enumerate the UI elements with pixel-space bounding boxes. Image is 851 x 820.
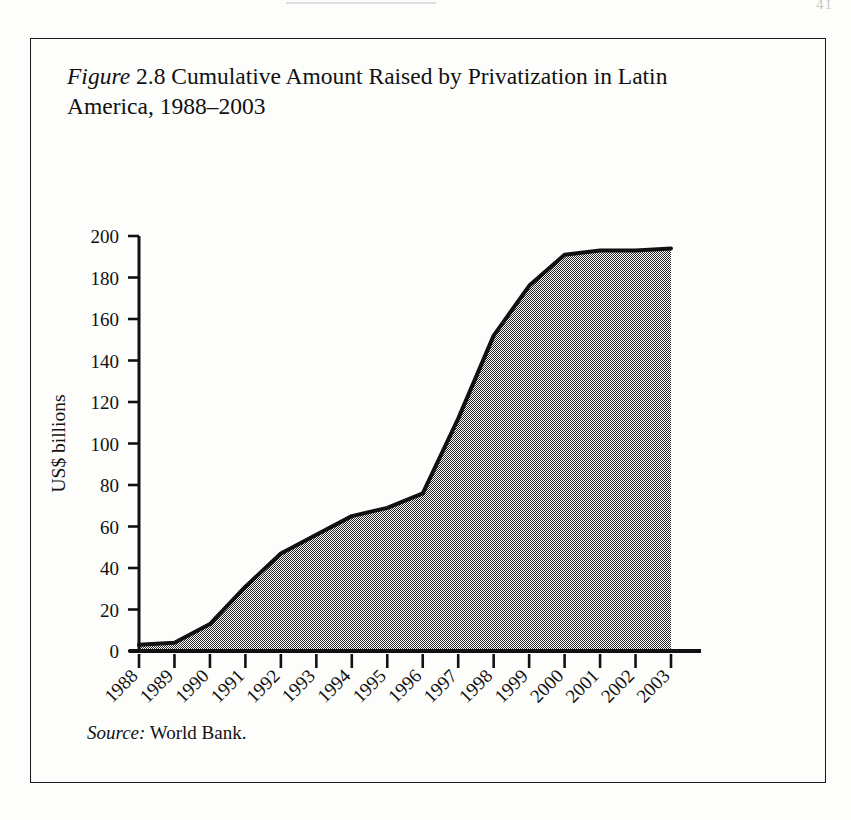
x-tick-label: 1996 (384, 665, 426, 707)
y-tick-label: 40 (100, 558, 119, 579)
x-tick-label: 1995 (348, 665, 390, 707)
x-tick-label: 1992 (242, 665, 284, 707)
chart-area: 0204060801001201401601802001988198919901… (31, 151, 827, 711)
y-tick-label: 200 (91, 226, 120, 247)
plot-root: 0204060801001201401601802001988198919901… (48, 226, 701, 707)
x-tick-label: 1999 (490, 665, 532, 707)
x-tick-label: 1991 (207, 665, 249, 707)
area-chart: 0204060801001201401601802001988198919901… (31, 151, 827, 711)
page-header-rule (286, 2, 436, 4)
page-number: 41 (816, 0, 833, 13)
x-tick-label: 2002 (597, 665, 639, 707)
figure-source: Source: World Bank. (87, 722, 246, 744)
x-tick-label: 1989 (136, 665, 178, 707)
x-tick-label: 2001 (561, 665, 603, 707)
x-tick-label: 1997 (419, 665, 461, 707)
x-tick-label: 1988 (100, 665, 142, 707)
y-axis-title: US$ billions (48, 394, 69, 492)
y-tick-label: 80 (100, 475, 119, 496)
y-tick-label: 60 (100, 517, 119, 538)
x-tick-label: 2000 (526, 665, 568, 707)
y-tick-label: 140 (91, 351, 120, 372)
area-fill (139, 248, 671, 651)
x-tick-label: 1994 (313, 665, 355, 707)
y-tick-label: 100 (91, 434, 120, 455)
y-tick-label: 20 (100, 600, 119, 621)
figure-number: 2.8 (130, 63, 165, 89)
y-tick-label: 120 (91, 392, 120, 413)
y-tick-label: 0 (110, 641, 120, 662)
x-tick-label: 1993 (277, 665, 319, 707)
source-label: Source: (87, 722, 145, 743)
y-tick-label: 180 (91, 268, 120, 289)
figure-label: Figure (67, 63, 130, 89)
x-tick-label: 1998 (455, 665, 497, 707)
y-tick-label: 160 (91, 309, 120, 330)
source-value: World Bank. (145, 722, 246, 743)
x-tick-label: 1990 (171, 665, 213, 707)
x-tick-label: 2003 (632, 665, 674, 707)
document-page: 41 Figure2.8 Cumulative Amount Raised by… (0, 0, 851, 820)
figure-frame: Figure2.8 Cumulative Amount Raised by Pr… (30, 38, 826, 783)
figure-title: Figure2.8 Cumulative Amount Raised by Pr… (67, 61, 727, 121)
